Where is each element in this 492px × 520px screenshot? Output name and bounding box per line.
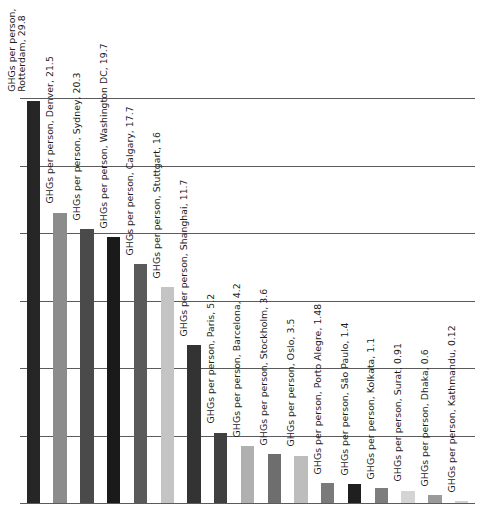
bar[interactable] bbox=[80, 229, 93, 503]
bar-data-label: GHGs per person, Shanghai, 11.7 bbox=[179, 179, 189, 336]
bar[interactable] bbox=[187, 345, 200, 503]
bar-data-label: GHGs per person, Sydney, 20.3 bbox=[72, 72, 82, 220]
plot-area: GHGs per person, Rotterdam, 29.8GHGs per… bbox=[20, 0, 475, 503]
bar-slot: GHGs per person, Denver, 21.5 bbox=[53, 0, 66, 503]
bar-slot: GHGs per person, Kathmandu, 0.12 bbox=[455, 0, 468, 503]
bar[interactable] bbox=[268, 454, 281, 503]
bar-slot: GHGs per person, Paris, 5.2 bbox=[214, 0, 227, 503]
bar-data-label: GHGs per person, Rotterdam, 29.8 bbox=[8, 0, 29, 92]
bar-slot: GHGs per person, Kolkata, 1.1 bbox=[375, 0, 388, 503]
bar[interactable] bbox=[27, 101, 40, 503]
bar-slot: GHGs per person, Stuttgart, 16 bbox=[161, 0, 174, 503]
bar-slot: GHGs per person, São Paulo, 1.4 bbox=[348, 0, 361, 503]
bar-slot: GHGs per person, Rotterdam, 29.8 bbox=[27, 0, 40, 503]
bar[interactable] bbox=[53, 213, 66, 503]
bar-data-label: GHGs per person, Denver, 21.5 bbox=[45, 57, 55, 204]
bar[interactable] bbox=[321, 483, 334, 503]
bar[interactable] bbox=[107, 237, 120, 503]
bar-slot: GHGs per person, Shanghai, 11.7 bbox=[187, 0, 200, 503]
bar-data-label: GHGs per person, Paris, 5.2 bbox=[205, 294, 215, 424]
bar-slot: GHGs per person, Surat, 0.91 bbox=[401, 0, 414, 503]
bar-data-label: GHGs per person, Calgary, 17.7 bbox=[125, 106, 135, 255]
bar[interactable] bbox=[241, 446, 254, 503]
bar[interactable] bbox=[401, 491, 414, 503]
bar-slot: GHGs per person, Porto Alegre, 1.48 bbox=[321, 0, 334, 503]
bar-data-label: GHGs per person, Surat, 0.91 bbox=[393, 343, 403, 481]
bar-data-label: GHGs per person, Dhaka, 0.6 bbox=[419, 349, 429, 486]
bar[interactable] bbox=[214, 433, 227, 503]
bar[interactable] bbox=[294, 456, 307, 503]
bar[interactable] bbox=[428, 495, 441, 503]
bar-data-label: GHGs per person, Barcelona, 4.2 bbox=[232, 283, 242, 437]
bar-slot: GHGs per person, Washington DC, 19.7 bbox=[107, 0, 120, 503]
bar-data-label: GHGs per person, Stockholm, 3.6 bbox=[259, 289, 269, 446]
bar-data-label: GHGs per person, Washington DC, 19.7 bbox=[98, 43, 108, 228]
bar-data-label: GHGs per person, Stuttgart, 16 bbox=[152, 132, 162, 278]
bar[interactable] bbox=[134, 264, 147, 503]
bar-slot: GHGs per person, Calgary, 17.7 bbox=[134, 0, 147, 503]
bar-data-label: GHGs per person, Kathmandu, 0.12 bbox=[446, 325, 456, 492]
bar[interactable] bbox=[375, 488, 388, 503]
bar[interactable] bbox=[348, 484, 361, 503]
bar[interactable] bbox=[161, 287, 174, 503]
bar-data-label: GHGs per person, Oslo, 3.5 bbox=[286, 319, 296, 447]
bar-slot: GHGs per person, Barcelona, 4.2 bbox=[241, 0, 254, 503]
bar-slot: GHGs per person, Oslo, 3.5 bbox=[294, 0, 307, 503]
bar-data-label: GHGs per person, Porto Alegre, 1.48 bbox=[312, 303, 322, 474]
x-axis-line bbox=[20, 503, 475, 504]
bar-chart: GHGs per person, Rotterdam, 29.8GHGs per… bbox=[0, 0, 492, 520]
bar-slot: GHGs per person, Dhaka, 0.6 bbox=[428, 0, 441, 503]
bar-data-label: GHGs per person, Kolkata, 1.1 bbox=[366, 337, 376, 479]
bar-slot: GHGs per person, Sydney, 20.3 bbox=[80, 0, 93, 503]
bar-slot: GHGs per person, Stockholm, 3.6 bbox=[268, 0, 281, 503]
bar-data-label: GHGs per person, São Paulo, 1.4 bbox=[339, 322, 349, 475]
